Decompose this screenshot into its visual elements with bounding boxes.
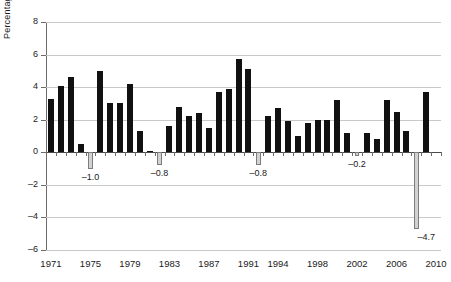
bar-1981 [147,151,153,153]
x-axis-tick [155,152,156,156]
bar-2003 [364,133,370,153]
bar-1980 [137,131,143,152]
bar-2002 [355,152,360,155]
y-axis-tick-label: 2 [0,114,38,124]
x-axis-tick [263,152,264,156]
x-axis-tick [46,152,47,156]
gridline [46,185,441,186]
y-axis-tick-label: 4 [0,81,38,91]
bar-1996 [295,136,301,152]
data-label-1982: –0.8 [151,168,169,178]
x-axis-tick [234,152,235,156]
x-axis-tick [194,152,195,156]
bar-2000 [334,100,340,152]
x-axis-tick [372,152,373,156]
x-axis-tick [214,152,215,156]
bar-2007 [403,131,409,152]
x-axis-tick [86,152,87,156]
x-axis-tick [184,152,185,156]
bar-2001 [344,133,350,153]
bar-1973 [68,77,74,152]
x-axis-tick [105,152,106,156]
bar-1995 [285,121,291,152]
data-label-2002: –0.2 [348,159,366,169]
x-axis-tick [323,152,324,156]
x-axis-tick [253,152,254,156]
bar-1991 [245,69,251,152]
x-axis-tick [273,152,274,156]
x-axis-tick [125,152,126,156]
gridline [46,87,441,88]
y-axis-tick [41,185,46,186]
x-axis-tick-label: 1991 [238,258,259,269]
y-axis-tick [41,55,46,56]
x-axis-tick [174,152,175,156]
bar-2008 [414,152,419,229]
x-axis-tick [283,152,284,156]
y-axis-tick [41,22,46,23]
x-axis-tick-label: 1983 [159,258,180,269]
x-axis-tick-label: 1971 [40,258,61,269]
y-axis-tick [41,250,46,251]
bar-1999 [324,120,330,153]
bar-1983 [166,126,172,152]
y-axis-tick-label: –6 [0,244,38,254]
x-axis-tick [165,152,166,156]
x-axis-tick-label: 1987 [198,258,219,269]
bar-2009 [423,92,429,152]
x-axis-tick-label: 2006 [386,258,407,269]
y-axis-tick-label: 0 [0,146,38,156]
x-axis-tick-label: 1979 [119,258,140,269]
bar-1994 [275,108,281,152]
bar-1988 [216,92,222,152]
y-axis-tick [41,120,46,121]
bar-1992 [256,152,261,165]
gridline [46,217,441,218]
x-axis-tick [303,152,304,156]
x-axis-tick [362,152,363,156]
bar-1976 [97,71,103,152]
bar-1979 [127,84,133,152]
data-label-1992: –0.8 [250,168,268,178]
x-axis-tick [145,152,146,156]
x-axis-tick-label: 1994 [267,258,288,269]
bar-1972 [58,86,64,153]
gridline [46,120,441,121]
x-axis-tick [95,152,96,156]
x-axis-tick-label: 1975 [80,258,101,269]
bar-1987 [206,128,212,152]
bar-1986 [196,113,202,152]
bar-1993 [265,116,271,152]
bar-chart: Percentage 86420–2–4–6 19711975197919831… [0,0,451,282]
x-axis-tick [313,152,314,156]
bar-1975 [88,152,93,168]
bar-2006 [394,112,400,153]
y-axis-tick-label: –4 [0,211,38,221]
bar-1998 [315,120,321,153]
gridline [46,55,441,56]
x-axis-tick [224,152,225,156]
x-axis-tick [293,152,294,156]
plot-area [46,22,441,250]
x-axis-tick [402,152,403,156]
bar-2005 [384,100,390,152]
y-axis-tick-label: –2 [0,179,38,189]
x-axis-tick [352,152,353,156]
bar-1985 [186,116,192,152]
x-axis-tick [431,152,432,156]
x-axis-tick [421,152,422,156]
bar-1997 [305,123,311,152]
x-axis-tick-label: 2002 [346,258,367,269]
x-axis-tick [135,152,136,156]
x-axis-tick-label: 2010 [425,258,446,269]
bar-2004 [374,139,380,152]
x-axis-tick [441,152,442,156]
x-axis-tick [411,152,412,156]
bar-1990 [236,59,242,152]
gridline [46,22,441,23]
x-axis-tick [76,152,77,156]
bar-1974 [78,144,84,152]
bar-1977 [107,103,113,152]
x-axis-tick [115,152,116,156]
y-axis-tick [41,217,46,218]
